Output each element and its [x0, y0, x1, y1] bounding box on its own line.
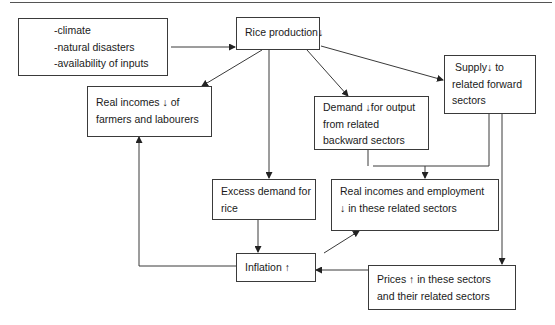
node-farmer-incomes-line-2: farmers and labourers	[96, 111, 211, 128]
node-related-incomes-line-1: Real incomes and employment	[340, 183, 498, 200]
node-backward-demand: Demand ↓for output from related backward…	[314, 96, 429, 150]
node-causes-line-2: -natural disasters	[54, 39, 167, 56]
node-backward-demand-line-1: Demand ↓for output	[323, 99, 428, 116]
node-causes: -climate -natural disasters -availabilit…	[18, 18, 168, 76]
node-inflation-label: Inflation ↑	[245, 259, 315, 276]
arrow-rice-to-farmer-incomes	[202, 50, 262, 86]
arrow-inflation-to-related-incomes	[324, 231, 359, 253]
node-backward-demand-line-3: backward sectors	[323, 132, 428, 149]
node-forward-supply-line-1: Supply↓ to	[452, 59, 535, 76]
node-forward-supply: Supply↓ to related forward sectors	[444, 55, 536, 114]
node-rice-production-label: Rice production↓	[245, 24, 319, 41]
node-backward-demand-line-2: from related	[323, 116, 428, 133]
node-rice-production: Rice production↓	[236, 17, 320, 50]
node-farmer-incomes: Real incomes ↓ of farmers and labourers	[87, 86, 212, 137]
node-prices: Prices ↑ in these sectors and their rela…	[368, 265, 516, 310]
node-related-incomes-line-2: ↓ in these related sectors	[340, 200, 498, 217]
node-prices-line-1: Prices ↑ in these sectors	[377, 271, 515, 288]
node-forward-supply-line-2: related forward	[452, 76, 535, 93]
node-prices-line-2: and their related sectors	[377, 288, 515, 305]
arrow-rice-to-backward-demand	[307, 50, 348, 96]
node-causes-line-3: -availability of inputs	[54, 55, 167, 72]
node-excess-demand-line-1: Excess demand for	[221, 183, 315, 200]
arrow-rice-to-forward-supply	[321, 46, 443, 80]
node-forward-supply-line-3: sectors	[452, 92, 535, 109]
node-causes-line-1: -climate	[54, 22, 167, 39]
node-excess-demand-line-2: rice	[221, 200, 315, 217]
node-related-incomes: Real incomes and employment ↓ in these r…	[331, 179, 499, 231]
node-inflation: Inflation ↑	[236, 253, 316, 282]
node-excess-demand: Excess demand for rice	[212, 179, 316, 220]
node-farmer-incomes-line-1: Real incomes ↓ of	[96, 94, 211, 111]
